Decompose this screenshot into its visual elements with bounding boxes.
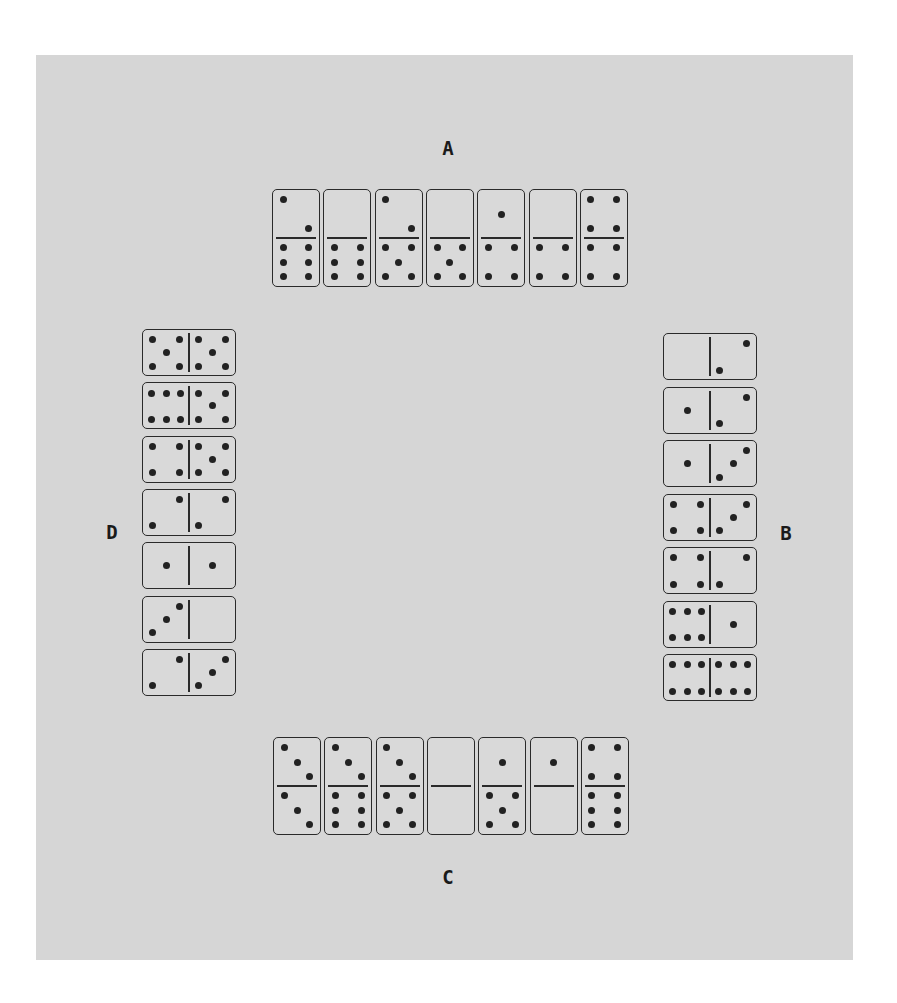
pip-icon — [698, 688, 705, 695]
pip-icon — [345, 759, 352, 766]
domino-half-0 — [324, 190, 370, 238]
pip-icon — [163, 390, 170, 397]
domino-a-1[interactable] — [272, 189, 320, 287]
domino-a-7[interactable] — [580, 189, 628, 287]
pip-icon — [613, 244, 620, 251]
domino-half-5 — [189, 330, 235, 375]
domino-divider — [481, 237, 521, 239]
pip-icon — [195, 363, 202, 370]
domino-a-6[interactable] — [529, 189, 577, 287]
pip-icon — [562, 244, 569, 251]
domino-half-4 — [664, 548, 710, 593]
pip-icon — [730, 661, 737, 668]
domino-b-2[interactable] — [663, 387, 757, 434]
pip-icon — [499, 759, 506, 766]
domino-divider — [482, 785, 522, 787]
pip-icon — [331, 244, 338, 251]
domino-d-3[interactable] — [142, 436, 236, 483]
domino-a-2[interactable] — [323, 189, 371, 287]
pip-icon — [294, 759, 301, 766]
domino-half-4 — [581, 190, 627, 238]
pip-icon — [614, 807, 621, 814]
pip-icon — [614, 744, 621, 751]
domino-half-4 — [530, 238, 576, 286]
pip-icon — [357, 244, 364, 251]
pip-icon — [486, 821, 493, 828]
pip-icon — [163, 562, 170, 569]
pip-icon — [684, 634, 691, 641]
pip-icon — [357, 259, 364, 266]
pip-icon — [332, 807, 339, 814]
pip-icon — [613, 225, 620, 232]
domino-b-6[interactable] — [663, 601, 757, 648]
domino-divider — [431, 785, 471, 787]
pip-icon — [358, 773, 365, 780]
domino-b-3[interactable] — [663, 440, 757, 487]
pip-icon — [716, 581, 723, 588]
pip-icon — [177, 390, 184, 397]
pip-icon — [588, 792, 595, 799]
pip-icon — [512, 821, 519, 828]
pip-icon — [209, 456, 216, 463]
domino-c-4[interactable] — [427, 737, 475, 835]
domino-c-2[interactable] — [324, 737, 372, 835]
domino-b-7[interactable] — [663, 654, 757, 701]
domino-c-7[interactable] — [581, 737, 629, 835]
pip-icon — [383, 821, 390, 828]
domino-divider — [709, 658, 711, 697]
pip-icon — [409, 821, 416, 828]
pip-icon — [562, 273, 569, 280]
domino-d-4[interactable] — [142, 489, 236, 536]
domino-d-6[interactable] — [142, 596, 236, 643]
pip-icon — [222, 656, 229, 663]
domino-d-2[interactable] — [142, 382, 236, 429]
domino-divider — [277, 785, 317, 787]
pip-icon — [305, 259, 312, 266]
pip-icon — [670, 501, 677, 508]
pip-icon — [684, 688, 691, 695]
pip-icon — [176, 363, 183, 370]
pip-icon — [305, 244, 312, 251]
domino-c-1[interactable] — [273, 737, 321, 835]
pip-icon — [715, 688, 722, 695]
pip-icon — [176, 336, 183, 343]
pip-icon — [684, 407, 691, 414]
pip-icon — [209, 349, 216, 356]
pip-icon — [149, 522, 156, 529]
domino-half-3 — [710, 441, 756, 486]
pip-icon — [684, 460, 691, 467]
pip-icon — [195, 522, 202, 529]
pip-icon — [669, 608, 676, 615]
domino-b-5[interactable] — [663, 547, 757, 594]
domino-half-6 — [325, 786, 371, 834]
domino-half-2 — [189, 490, 235, 535]
pip-icon — [222, 443, 229, 450]
domino-d-7[interactable] — [142, 649, 236, 696]
domino-d-1[interactable] — [142, 329, 236, 376]
domino-half-2 — [710, 548, 756, 593]
domino-a-5[interactable] — [477, 189, 525, 287]
domino-a-4[interactable] — [426, 189, 474, 287]
pip-icon — [331, 273, 338, 280]
pip-icon — [294, 807, 301, 814]
pip-icon — [512, 792, 519, 799]
domino-c-5[interactable] — [478, 737, 526, 835]
pip-icon — [716, 420, 723, 427]
domino-d-5[interactable] — [142, 542, 236, 589]
domino-half-1 — [531, 738, 577, 786]
domino-c-3[interactable] — [376, 737, 424, 835]
domino-b-1[interactable] — [663, 333, 757, 380]
pip-icon — [698, 661, 705, 668]
domino-half-5 — [189, 437, 235, 482]
pip-icon — [669, 634, 676, 641]
pip-icon — [306, 773, 313, 780]
domino-half-2 — [710, 388, 756, 433]
domino-b-4[interactable] — [663, 494, 757, 541]
domino-a-3[interactable] — [375, 189, 423, 287]
pip-icon — [716, 527, 723, 534]
player-label-b: B — [771, 523, 801, 543]
domino-half-3 — [377, 738, 423, 786]
domino-c-6[interactable] — [530, 737, 578, 835]
domino-divider — [276, 237, 316, 239]
pip-icon — [536, 273, 543, 280]
